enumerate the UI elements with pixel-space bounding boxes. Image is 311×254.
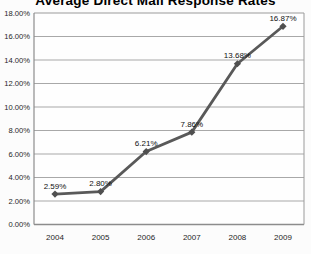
x-axis-tick-label: 2004 [46, 233, 64, 242]
data-label: 16.87% [269, 14, 296, 23]
y-axis-tick-label: 6.00% [8, 150, 30, 159]
line-chart: Average Direct Mail Response Rates 0.00%… [0, 0, 311, 254]
data-label: 6.21% [135, 139, 158, 148]
y-axis-tick-label: 18.00% [4, 9, 30, 18]
data-label: 2.59% [44, 182, 67, 191]
x-axis-tick-label: 2007 [183, 233, 201, 242]
data-label: 13.68% [224, 51, 251, 60]
data-label: 2.80% [89, 179, 112, 188]
data-label: 7.86% [180, 120, 203, 129]
y-axis-tick-label: 2.00% [8, 197, 30, 206]
x-axis-tick-label: 2008 [229, 233, 247, 242]
plot-area: 0.00%2.00%4.00%6.00%8.00%10.00%12.00%14.… [0, 0, 311, 254]
x-axis-tick-label: 2006 [137, 233, 155, 242]
y-axis-tick-label: 8.00% [8, 126, 30, 135]
y-axis-tick-label: 0.00% [8, 220, 30, 229]
y-axis-tick-label: 14.00% [4, 56, 30, 65]
y-axis-tick-label: 4.00% [8, 173, 30, 182]
x-axis-tick-label: 2009 [274, 233, 292, 242]
y-axis-tick-label: 12.00% [4, 79, 30, 88]
y-axis-tick-label: 16.00% [4, 32, 30, 41]
x-axis-tick-label: 2005 [92, 233, 110, 242]
y-axis-tick-label: 10.00% [4, 103, 30, 112]
